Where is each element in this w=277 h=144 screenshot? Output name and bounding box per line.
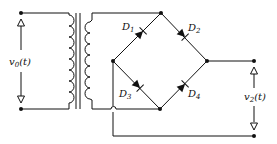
node-right — [205, 59, 209, 63]
output-terminal-bottom — [252, 134, 256, 138]
arrow-up-icon — [251, 67, 258, 74]
output-voltage-indicator: v2(t) — [244, 59, 266, 138]
diode-d2 — [176, 28, 189, 41]
arrow-down-icon — [18, 96, 25, 103]
diode-icon — [177, 29, 188, 40]
circuit-diagram: v0(t) — [0, 0, 277, 144]
node-top — [159, 11, 163, 15]
diode-bridge: D1 D2 D3 D4 — [111, 11, 209, 111]
arrow-up-icon — [18, 19, 25, 26]
node-bottom — [158, 107, 162, 111]
d4-label: D4 — [187, 88, 201, 101]
output-voltage-label: v2(t) — [244, 91, 266, 104]
d3-label: D3 — [118, 88, 132, 101]
transformer — [69, 13, 92, 109]
input-voltage-indicator: v0(t) — [9, 19, 31, 103]
node-left — [111, 59, 115, 63]
input-voltage-label: v0(t) — [9, 56, 31, 69]
d2-label: D2 — [187, 22, 201, 35]
primary-winding — [69, 13, 74, 109]
input-terminal-bottom — [19, 107, 23, 111]
secondary-winding — [85, 13, 92, 109]
secondary-circuit — [92, 13, 254, 136]
input-terminal-top — [19, 11, 23, 15]
output-terminal-top — [252, 59, 256, 63]
d1-label: D1 — [121, 21, 135, 34]
arrow-down-icon — [251, 123, 258, 130]
